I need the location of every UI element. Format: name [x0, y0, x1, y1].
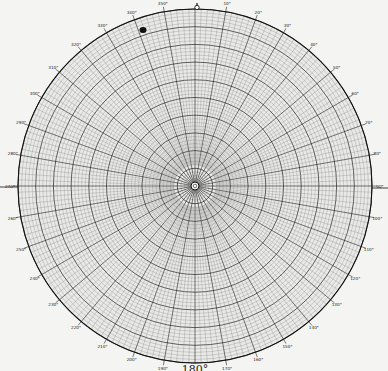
angle-label: 80°	[373, 151, 380, 156]
angle-label: 340°	[127, 10, 137, 15]
label-tick	[133, 15, 135, 20]
north-marker-circle	[195, 5, 199, 9]
angle-label: 290°	[16, 120, 26, 125]
angle-label: 40°	[310, 42, 317, 47]
label-tick	[226, 7, 227, 12]
angle-label: 350°	[158, 1, 168, 6]
angle-label: 230°	[48, 302, 58, 307]
angle-label: 250°	[16, 247, 26, 252]
angle-label: 170°	[222, 366, 232, 371]
angle-label: 140°	[309, 325, 319, 330]
angle-label: 320°	[71, 42, 81, 47]
angle-label: 190°	[158, 366, 168, 371]
ink-spot	[140, 27, 147, 33]
angle-label: 270°	[5, 184, 15, 189]
angle-label: 260°	[8, 216, 18, 221]
angle-label: 130°	[332, 302, 342, 307]
label-tick	[226, 360, 227, 365]
angle-label: 30°	[284, 23, 291, 28]
polar-chart: 10°20°30°40°50°60°70°80°90°100°110°120°1…	[0, 0, 388, 371]
angle-label: 310°	[48, 65, 58, 70]
label-tick	[256, 352, 258, 357]
angle-label: 120°	[350, 276, 360, 281]
center-hub	[191, 182, 199, 190]
label-tick	[284, 28, 287, 32]
angle-label: 160°	[253, 357, 263, 362]
angle-label: 150°	[282, 344, 292, 349]
angle-label: 330°	[97, 23, 107, 28]
angle-label: 20°	[255, 10, 262, 15]
angle-label: 70°	[365, 120, 372, 125]
angle-label: 220°	[71, 325, 81, 330]
angle-label: 50°	[333, 65, 340, 70]
label-tick	[256, 15, 258, 20]
angle-label: 110°	[364, 247, 374, 252]
angle-label: 240°	[30, 276, 40, 281]
label-tick	[163, 7, 164, 12]
angle-label: 280°	[8, 151, 18, 156]
label-tick	[133, 352, 135, 357]
angle-label: 300°	[30, 91, 40, 96]
angle-label: 210°	[97, 344, 107, 349]
label-tick	[309, 47, 312, 51]
label-tick	[163, 360, 164, 365]
label-tick	[104, 28, 107, 32]
label-tick	[78, 47, 81, 51]
angle-label: 60°	[351, 91, 358, 96]
angle-label: 200°	[127, 357, 137, 362]
polar-grid	[18, 9, 372, 363]
label-180: 180°	[182, 363, 209, 371]
angle-label: 10°	[223, 1, 230, 6]
angle-label: 100°	[372, 216, 382, 221]
